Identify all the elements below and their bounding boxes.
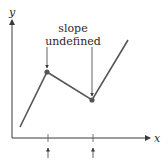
local-min-corner-point: [89, 97, 94, 102]
y-axis-label: y: [8, 6, 16, 19]
x-axis-label: x: [154, 132, 161, 145]
annotation-line-1: slope: [58, 22, 87, 35]
local-max-corner-point: [44, 69, 49, 74]
graph-figure: y x slope undefined: [0, 0, 168, 161]
annotation-line-2: undefined: [45, 35, 101, 48]
piecewise-curve: [20, 40, 128, 127]
